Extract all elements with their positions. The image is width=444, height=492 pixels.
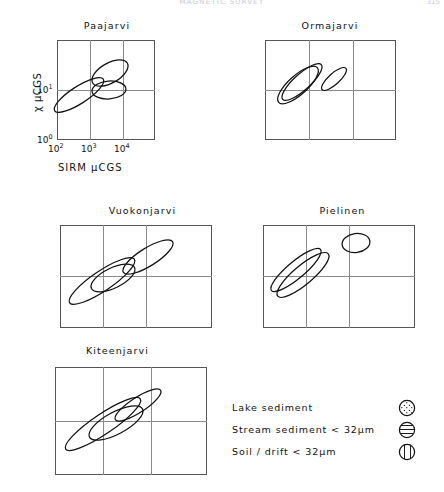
x-tick-10e3: 103 <box>81 142 97 154</box>
envelope-stream-sediment <box>87 258 139 297</box>
figure-magnetic-envelopes: MAGNETIC SURVEY 315 <box>0 0 444 492</box>
legend-label: Soil / drift < 32μm <box>232 446 336 457</box>
plot-area-pielinen <box>263 225 415 328</box>
panel-title: Paajarvi <box>37 20 177 31</box>
y-tick-10e1: 101 <box>37 83 53 95</box>
envelope-stream-sediment <box>84 399 147 447</box>
envelope-lake-sediment <box>341 232 371 255</box>
panel-pielinen: Pielinen <box>255 205 430 340</box>
vertical-striped-circle-icon <box>398 443 416 461</box>
legend-item-stream-sediment: Stream sediment < 32μm <box>232 420 375 438</box>
envelope-soil-drift <box>266 243 326 297</box>
plot-area-paajarvi <box>57 40 155 140</box>
legend-item-lake-sediment: Lake sediment <box>232 398 313 416</box>
envelope-soil-drift <box>60 391 146 458</box>
envelope-group-paajarvi <box>57 40 155 140</box>
x-tick-10e4: 104 <box>114 142 130 154</box>
envelope-soil-drift <box>64 251 140 311</box>
panel-title: Vuokonjarvi <box>55 205 230 216</box>
plot-area-ormajarvi <box>265 40 396 140</box>
dotted-circle-icon <box>398 399 416 417</box>
legend-item-soil-drift: Soil / drift < 32μm <box>232 442 336 460</box>
legend: Lake sediment Stream sediment < 32μm Soi… <box>232 398 432 470</box>
panel-ormajarvi: Ormajarvi <box>255 20 405 150</box>
horizontal-striped-circle-icon <box>398 421 416 439</box>
legend-label: Lake sediment <box>232 402 313 413</box>
envelope-lake-sediment <box>318 64 349 94</box>
legend-label: Stream sediment < 32μm <box>232 424 375 435</box>
envelope-soil-drift <box>272 61 323 110</box>
envelope-group-kiteenjarvi <box>55 367 207 475</box>
envelope-stream-sediment <box>91 80 126 100</box>
panel-title: Ormajarvi <box>255 20 405 31</box>
envelope-stream-sediment <box>277 59 326 106</box>
x-tick-10e2: 102 <box>48 142 64 154</box>
envelope-group-vuokonjarvi <box>60 225 212 328</box>
plot-area-kiteenjarvi <box>55 367 207 475</box>
page-folio: 315 <box>427 0 440 6</box>
running-head: MAGNETIC SURVEY <box>0 0 444 7</box>
panel-vuokonjarvi: Vuokonjarvi <box>55 205 230 340</box>
envelope-group-pielinen <box>263 225 415 328</box>
envelope-soil-drift <box>50 72 108 118</box>
panel-kiteenjarvi: Kiteenjarvi <box>30 345 205 485</box>
x-axis-label: SIRM μCGS <box>58 162 123 173</box>
envelope-group-ormajarvi <box>265 40 396 140</box>
panel-title: Pielinen <box>255 205 430 216</box>
panel-title: Kiteenjarvi <box>30 345 205 356</box>
plot-area-vuokonjarvi <box>60 225 212 328</box>
panel-paajarvi: Paajarvi χ μCGS 10 <box>30 20 180 150</box>
